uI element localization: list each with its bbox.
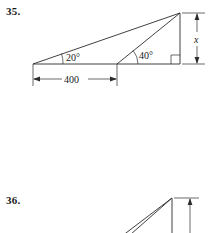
dimension-x-top-arrowhead-36 [188, 198, 193, 205]
problem-36-figure: 38° 43° 100 x [0, 95, 211, 233]
dimension-x-top-arrowhead-35 [195, 13, 200, 20]
dimension-400-right-arrowhead [110, 77, 117, 82]
angle-label-20: 20° [66, 52, 80, 63]
angle-arc-20 [62, 54, 64, 64]
triangle-36-long-hypotenuse [47, 198, 172, 233]
angle-label-40: 40° [139, 50, 153, 61]
angle-arc-40 [133, 51, 138, 65]
right-angle-marker-35 [171, 55, 180, 64]
triangle-36-cevian [64, 198, 172, 233]
dimension-label-x-35: x [193, 34, 199, 45]
dimension-label-400: 400 [64, 74, 79, 85]
dimension-400-left-arrowhead [33, 77, 40, 82]
dimension-x-bottom-arrowhead-35 [195, 57, 200, 64]
worksheet-page: 35. 20° 40° [0, 0, 211, 233]
problem-36: 36. 38° 43° [0, 95, 211, 233]
triangle-35-long-hypotenuse [33, 13, 180, 64]
